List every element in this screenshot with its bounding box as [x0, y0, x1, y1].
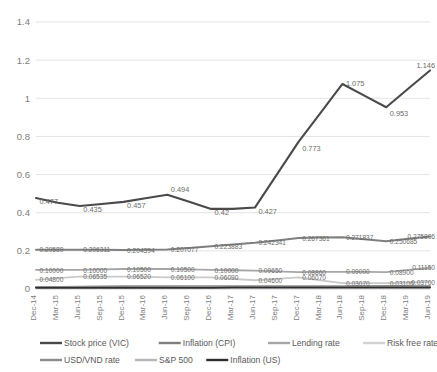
data-label: 0.457	[127, 201, 146, 210]
x-axis-tick-label: Sep-15	[95, 294, 104, 320]
legend-label[interactable]: Stock price (VIC)	[64, 338, 129, 348]
y-axis-tick-label: 1	[25, 93, 30, 104]
chart-legend: Stock price (VIC)Inflation (CPI)Lending …	[40, 338, 437, 365]
data-label: 0.494	[171, 185, 190, 194]
x-axis-tick-label: Mar-16	[138, 294, 147, 320]
x-axis-tick-labels: Dec-14Mar-15Jun-15Sep-15Dec-15Mar-16Jun-…	[29, 294, 432, 320]
data-label: 0.09650	[258, 267, 282, 274]
data-label: 0.435	[83, 205, 102, 214]
legend-label[interactable]: Risk free rate	[387, 338, 437, 348]
data-label: 0.20589	[40, 246, 64, 253]
data-label: 0.773	[302, 144, 321, 153]
data-label: 1.075	[346, 79, 365, 88]
series-line-stock-price-vic	[36, 70, 430, 208]
y-axis-tick-label: 0.8	[17, 131, 30, 142]
data-label: 0.06520	[127, 273, 151, 280]
data-label: 0.427	[258, 207, 277, 216]
data-label: 0.10500	[171, 266, 195, 273]
data-label: 0.271837	[346, 234, 374, 241]
data-label: 0.06100	[171, 274, 195, 281]
data-label: 0.275806	[407, 233, 435, 240]
x-axis-tick-label: Mar-18	[314, 294, 323, 320]
legend-label[interactable]: USD/VND rate	[64, 355, 120, 365]
data-label: 0.04800	[40, 276, 64, 283]
data-label: 0.204394	[127, 247, 155, 254]
data-label: 1.146	[417, 61, 436, 70]
series-lines	[36, 70, 430, 287]
x-axis-tick-label: Mar-17	[226, 294, 235, 320]
data-label: 0.03070	[346, 280, 370, 287]
y-axis-tick-label: 0	[25, 283, 30, 294]
x-axis-tick-label: Jun-17	[248, 294, 257, 319]
x-axis-tick-label: Sep-18	[357, 294, 366, 320]
x-axis-tick-label: Sep-17	[270, 294, 279, 320]
data-label: 0.03700	[411, 279, 435, 286]
line-chart: 00.20.40.60.811.21.4 0.4770.4350.4570.49…	[0, 0, 437, 372]
chart-container: 00.20.40.60.811.21.4 0.4770.4350.4570.49…	[0, 0, 437, 372]
legend-label[interactable]: Inflation (US)	[230, 355, 280, 365]
data-label: 0.06070	[302, 274, 326, 281]
data-label: 0.04600	[258, 277, 282, 284]
data-label: 0.953	[390, 109, 409, 118]
data-label: 0.267361	[302, 235, 330, 242]
x-axis-tick-label: Dec-16	[204, 294, 213, 320]
data-label: 0.08900	[390, 269, 414, 276]
x-axis-tick-label: Sep-16	[182, 294, 191, 320]
data-label: 0.42	[215, 208, 229, 217]
x-axis-tick-label: Dec-15	[117, 294, 126, 320]
y-axis-tick-label: 1.4	[17, 16, 30, 27]
y-axis-tick-label: 0.4	[17, 207, 30, 218]
data-label: 0.242341	[258, 239, 286, 246]
y-axis-tick-label: 0.6	[17, 169, 30, 180]
x-axis-tick-label: Mar-19	[401, 294, 410, 320]
y-axis-tick-label: 1.2	[17, 55, 30, 66]
y-axis-tick-label: 0.2	[17, 245, 30, 256]
data-label: 0.207077	[171, 246, 199, 253]
x-axis-tick-label: Dec-18	[379, 294, 388, 320]
legend-label[interactable]: Lending rate	[292, 338, 340, 348]
x-axis-tick-label: Mar-15	[51, 294, 60, 320]
data-label: 0.06090	[215, 274, 239, 281]
data-label: 0.10000	[40, 267, 64, 274]
legend-label[interactable]: S&P 500	[159, 355, 193, 365]
x-axis-tick-label: Jun-19	[423, 294, 432, 319]
data-label: 0.223883	[215, 243, 243, 250]
x-axis-tick-label: Jun-16	[160, 294, 169, 319]
data-label: 0.09000	[346, 268, 370, 275]
data-label: 0.10000	[215, 267, 239, 274]
data-label: 0.477	[40, 197, 59, 206]
legend-label[interactable]: Inflation (CPI)	[183, 338, 236, 348]
x-axis-tick-label: Jun-18	[335, 294, 344, 319]
x-axis-tick-label: Dec-17	[292, 294, 301, 320]
x-axis-tick-label: Dec-14	[29, 294, 38, 320]
data-point-labels: 0.4770.4350.4570.4940.420.4270.7731.0750…	[40, 61, 436, 286]
data-label: 0.206311	[83, 246, 110, 253]
data-label: 0.11150	[412, 264, 435, 271]
data-label: 0.06535	[83, 273, 107, 280]
y-axis-tick-labels: 00.20.40.60.811.21.4	[17, 16, 30, 294]
data-label: 0.10500	[127, 266, 151, 273]
x-axis-tick-label: Jun-15	[73, 294, 82, 319]
